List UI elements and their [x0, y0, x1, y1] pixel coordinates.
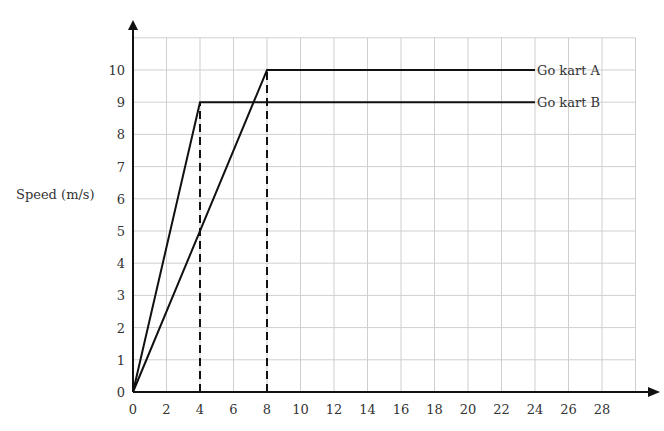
speed-time-chart: 0246810121416182022242628012345678910Go … [0, 0, 664, 431]
x-tick-label: 16 [393, 402, 410, 417]
y-tick-label: 6 [117, 192, 125, 207]
y-tick-label: 4 [117, 256, 125, 271]
x-tick-label: 2 [162, 402, 170, 417]
x-tick-label: 22 [493, 402, 510, 417]
y-tick-label: 3 [117, 288, 125, 303]
x-tick-label: 6 [229, 402, 237, 417]
y-tick-label: 0 [117, 385, 125, 400]
y-axis-arrow-icon [128, 20, 138, 30]
x-tick-label: 26 [560, 402, 577, 417]
x-tick-label: 14 [359, 402, 376, 417]
y-tick-label: 8 [117, 127, 125, 142]
x-tick-label: 10 [292, 402, 309, 417]
x-tick-label: 18 [426, 402, 443, 417]
x-tick-label: 24 [527, 402, 544, 417]
y-tick-label: 10 [108, 63, 125, 78]
x-tick-label: 20 [460, 402, 477, 417]
y-tick-label: 1 [117, 353, 125, 368]
series-label: Go kart A [537, 63, 601, 78]
y-tick-label: 7 [117, 160, 125, 175]
x-axis-arrow-icon [648, 387, 660, 397]
x-tick-label: 28 [594, 402, 611, 417]
y-tick-label: 2 [117, 321, 125, 336]
x-tick-label: 4 [196, 402, 204, 417]
y-tick-label: 9 [117, 95, 125, 110]
x-tick-label: 8 [263, 402, 271, 417]
series-label: Go kart B [537, 95, 600, 110]
x-tick-label: 0 [129, 402, 137, 417]
y-tick-label: 5 [117, 224, 125, 239]
x-tick-label: 12 [326, 402, 343, 417]
